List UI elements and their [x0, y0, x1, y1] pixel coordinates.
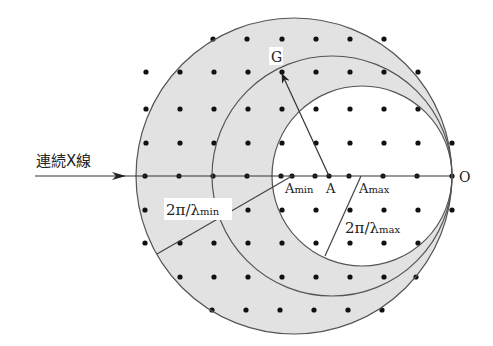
point-Amax-label: Amax [358, 181, 390, 196]
lattice-point [415, 69, 420, 74]
lattice-point [279, 36, 284, 41]
lattice-point [245, 274, 250, 279]
lattice-point [381, 207, 386, 212]
lattice-point [245, 69, 250, 74]
lattice-point [277, 307, 282, 312]
lattice-point [311, 307, 316, 312]
lattice-point [279, 69, 284, 74]
lattice-point [381, 106, 386, 111]
lattice-point [415, 207, 420, 212]
lattice-point [313, 69, 318, 74]
lattice-point [279, 240, 284, 245]
lattice-point [313, 274, 318, 279]
lattice-point [177, 106, 182, 111]
incident-xray-label: 連続X線 [36, 152, 91, 170]
lattice-point [279, 274, 284, 279]
point-Amin-label: Amin [284, 181, 314, 196]
lattice-point [143, 69, 148, 74]
lattice-point [313, 207, 318, 212]
lattice-point [313, 36, 318, 41]
lattice-point [279, 106, 284, 111]
lattice-point [313, 240, 318, 245]
lattice-point [211, 274, 216, 279]
lattice-point [177, 140, 182, 145]
lattice-point [211, 69, 216, 74]
lattice-point [243, 307, 248, 312]
lattice-point [211, 106, 216, 111]
lattice-point [449, 207, 454, 212]
lattice-point [381, 240, 386, 245]
lattice-point [143, 140, 148, 145]
lattice-point [211, 240, 216, 245]
lattice-point [345, 307, 350, 312]
lattice-point [347, 240, 352, 245]
point-G-label: G [271, 49, 282, 65]
lattice-point [347, 106, 352, 111]
lattice-point [244, 36, 249, 41]
lattice-point [381, 274, 386, 279]
ewald-diagram: 連続X線 G O Amin A Amax 2π/λmin 2π/λmax [0, 0, 493, 346]
lattice-point [245, 240, 250, 245]
lattice-point [245, 140, 250, 145]
lattice-point [177, 274, 182, 279]
point-A-label: A [325, 181, 336, 196]
lattice-point [347, 140, 352, 145]
lattice-point [142, 207, 147, 212]
lattice-point [143, 106, 148, 111]
lattice-point [142, 240, 147, 245]
lattice-point [381, 69, 386, 74]
lattice-point [347, 69, 352, 74]
diagram-canvas: 連続X線 G O Amin A Amax 2π/λmin 2π/λmax [0, 0, 493, 346]
lattice-point [313, 106, 318, 111]
lattice-point [245, 207, 250, 212]
lattice-point [245, 106, 250, 111]
lattice-point [279, 140, 284, 145]
lattice-point [381, 36, 386, 41]
lattice-point [347, 274, 352, 279]
lattice-point [347, 207, 352, 212]
point-O-label: O [459, 169, 470, 185]
lattice-point [449, 140, 454, 145]
lattice-point [279, 207, 284, 212]
lattice-point [347, 36, 352, 41]
lattice-point [415, 140, 420, 145]
lattice-point [381, 140, 386, 145]
lattice-point [177, 69, 182, 74]
